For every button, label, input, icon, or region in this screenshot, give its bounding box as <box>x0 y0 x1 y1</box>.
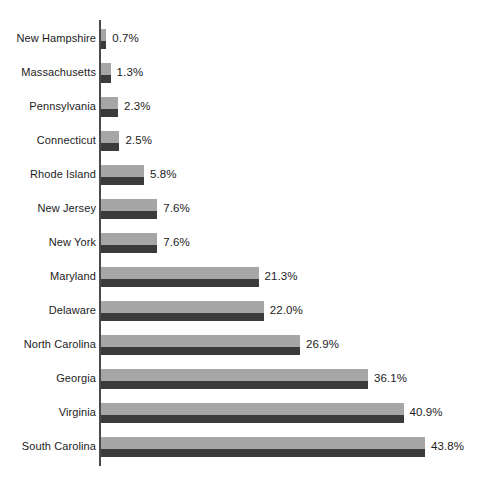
bar-value-label: 7.6% <box>163 236 190 249</box>
bar-segment-dark <box>101 177 144 185</box>
bar-value-label: 0.7% <box>112 32 139 45</box>
bar <box>101 199 157 219</box>
category-label: Georgia <box>0 372 96 385</box>
bar-segment-dark <box>101 347 300 355</box>
bar-segment-light <box>101 301 264 313</box>
category-label: Rhode Island <box>0 168 96 181</box>
bar-row: New York7.6% <box>0 233 481 255</box>
bar-row: Connecticut2.5% <box>0 131 481 153</box>
bar <box>101 437 425 457</box>
category-label: Connecticut <box>0 134 96 147</box>
bar <box>101 233 157 253</box>
bar-row: Virginia40.9% <box>0 403 481 425</box>
bar <box>101 369 368 389</box>
bar-segment-dark <box>101 143 119 151</box>
bar <box>101 165 144 185</box>
bar-segment-dark <box>101 279 259 287</box>
bar-row: Rhode Island5.8% <box>0 165 481 187</box>
bar-segment-light <box>101 437 425 449</box>
category-label: Pennsylvania <box>0 100 96 113</box>
bar-segment-light <box>101 267 259 279</box>
bar-segment-light <box>101 29 106 41</box>
bar <box>101 403 404 423</box>
bar-segment-dark <box>101 41 106 49</box>
bar-segment-dark <box>101 415 404 423</box>
bar <box>101 97 118 117</box>
bar-value-label: 22.0% <box>270 304 303 317</box>
bar <box>101 301 264 321</box>
bar-segment-dark <box>101 449 425 457</box>
category-label: Delaware <box>0 304 96 317</box>
bar-value-label: 43.8% <box>431 440 464 453</box>
bar-segment-light <box>101 335 300 347</box>
category-label: Massachusetts <box>0 66 96 79</box>
category-label: Virginia <box>0 406 96 419</box>
bar-value-label: 21.3% <box>265 270 298 283</box>
bar-segment-dark <box>101 381 368 389</box>
bar-value-label: 36.1% <box>374 372 407 385</box>
bar-value-label: 40.9% <box>410 406 443 419</box>
category-label: South Carolina <box>0 440 96 453</box>
bar <box>101 335 300 355</box>
bar-row: Maryland21.3% <box>0 267 481 289</box>
bar-row: South Carolina43.8% <box>0 437 481 459</box>
bar-row: New Hampshire0.7% <box>0 29 481 51</box>
bar-value-label: 2.3% <box>124 100 151 113</box>
bar-row: Pennsylvania2.3% <box>0 97 481 119</box>
bar-segment-dark <box>101 313 264 321</box>
bar <box>101 131 119 151</box>
bar-value-label: 2.5% <box>125 134 152 147</box>
bar-segment-dark <box>101 75 111 83</box>
bar-segment-dark <box>101 245 157 253</box>
category-label: North Carolina <box>0 338 96 351</box>
category-label: New Hampshire <box>0 32 96 45</box>
bar-segment-light <box>101 199 157 211</box>
bar-value-label: 7.6% <box>163 202 190 215</box>
bar-row: North Carolina26.9% <box>0 335 481 357</box>
bar-value-label: 26.9% <box>306 338 339 351</box>
bar-row: New Jersey7.6% <box>0 199 481 221</box>
bar-row: Massachusetts1.3% <box>0 63 481 85</box>
bar-row: Georgia36.1% <box>0 369 481 391</box>
category-label: New York <box>0 236 96 249</box>
bar-row: Delaware22.0% <box>0 301 481 323</box>
bar-chart: New Hampshire0.7%Massachusetts1.3%Pennsy… <box>0 0 481 481</box>
plot-area: New Hampshire0.7%Massachusetts1.3%Pennsy… <box>0 0 481 481</box>
bar-segment-light <box>101 63 111 75</box>
bar-segment-light <box>101 369 368 381</box>
bar-segment-light <box>101 403 404 415</box>
bar-segment-light <box>101 131 119 143</box>
category-label: Maryland <box>0 270 96 283</box>
bar-value-label: 5.8% <box>150 168 177 181</box>
category-label: New Jersey <box>0 202 96 215</box>
bar-value-label: 1.3% <box>117 66 144 79</box>
bar-segment-dark <box>101 211 157 219</box>
bar <box>101 29 106 49</box>
bar-segment-light <box>101 165 144 177</box>
bar-segment-dark <box>101 109 118 117</box>
bar-segment-light <box>101 233 157 245</box>
bar <box>101 63 111 83</box>
bar <box>101 267 259 287</box>
bar-segment-light <box>101 97 118 109</box>
